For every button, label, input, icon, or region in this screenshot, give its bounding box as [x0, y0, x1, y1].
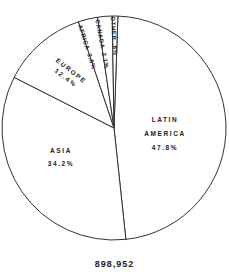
slice-label-asia: ASIA — [50, 147, 72, 154]
slice-value-latin-america: 47.8% — [152, 144, 178, 151]
pie-slice-latin-america — [114, 16, 226, 239]
slice-value-asia: 34.2% — [48, 160, 74, 167]
slice-label-latin-america-line2: AMERICA — [144, 130, 186, 137]
slice-label-latin-america-line1: LATIN — [152, 116, 179, 123]
total-value: 898,952 — [0, 259, 229, 269]
pie-chart: LATIN AMERICA 47.8% ASIA 34.2% EUROPE 12… — [0, 0, 229, 250]
